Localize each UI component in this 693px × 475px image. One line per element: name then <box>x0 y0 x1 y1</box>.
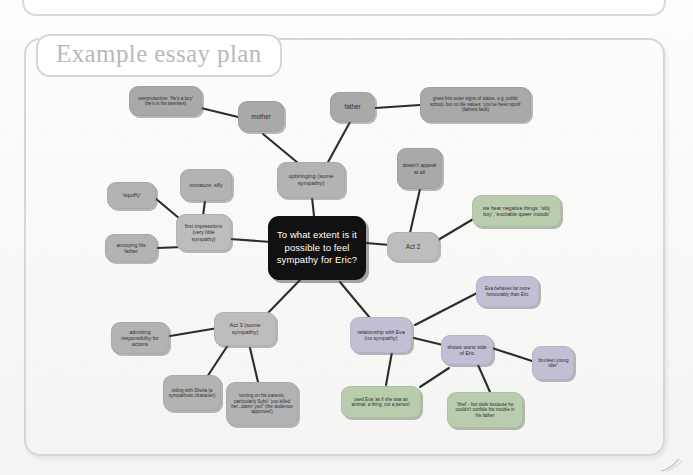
node-label: 'squiffy' <box>112 192 151 199</box>
mindmap-node-eva-honourably[interactable]: Eva behaves far more honourably than Eri… <box>476 276 539 307</box>
mindmap-node-overprotective[interactable]: overprotective: 'He's a boy' (he's in hi… <box>129 86 202 116</box>
mindmap-node-negative-things[interactable]: we hear negative things: 'silly boy', 'e… <box>472 195 561 227</box>
mindmap-node-annoying-father[interactable]: annoying his father <box>105 234 157 262</box>
node-label: annoying his father <box>110 242 152 254</box>
node-label: immature, silly <box>185 182 227 188</box>
node-label: used Eva 'as if she was an animal, a thi… <box>346 397 416 408</box>
page-corner-curl <box>657 447 687 473</box>
mindmap-node-squiffy[interactable]: 'squiffy' <box>107 182 156 209</box>
mindmap-node-drunken-idler[interactable]: 'drunken young idler' <box>532 346 574 380</box>
mindmap-node-act3[interactable]: Act 3 (some sympathy) <box>214 312 276 346</box>
node-label: overprotective: 'He's a boy' (he's in hi… <box>134 96 197 107</box>
mindmap-node-center[interactable]: To what extent is it possible to feel sy… <box>268 216 366 280</box>
node-label: father <box>335 103 370 110</box>
mindmap-node-turning-parents[interactable]: turning on his parents, particularly Syb… <box>226 382 298 426</box>
node-label: relationship with Eva (no sympathy) <box>355 329 407 341</box>
node-label: turning on his parents, particularly Syb… <box>231 393 293 415</box>
page-title-tab: Example essay plan <box>36 34 282 77</box>
node-label: To what extent is it possible to feel sy… <box>273 229 361 267</box>
mindmap-node-doesnt-appear[interactable]: doesn't appear at all <box>397 148 442 189</box>
node-label: Act 2 <box>392 243 434 250</box>
mindmap-node-first-impressions[interactable]: first impressions (very little sympathy) <box>176 214 231 251</box>
node-label: gives him outer signs of status, e.g. pu… <box>425 96 526 112</box>
mindmap-node-mother[interactable]: mother <box>238 101 284 132</box>
node-label: 'thief' - but stole because he couldn't … <box>452 402 518 418</box>
mindmap-node-relationship-eva[interactable]: relationship with Eva (no sympathy) <box>350 317 412 353</box>
node-label: upbringing (some sympathy) <box>282 173 340 187</box>
mindmap-node-act2[interactable]: Act 2 <box>387 232 439 261</box>
node-label: Act 3 (some sympathy) <box>219 322 271 336</box>
mindmap-node-status[interactable]: gives him outer signs of status, e.g. pu… <box>420 87 531 122</box>
node-label: admitting responsibility for actions <box>116 329 164 347</box>
mindmap-node-worst-side[interactable]: shows worst side of Eric <box>441 335 493 365</box>
mindmap-node-siding-sheila[interactable]: siding with Sheila (a sympathetic charac… <box>163 375 221 411</box>
node-label: shows worst side of Eric <box>446 344 488 356</box>
node-label: doesn't appear at all <box>402 162 437 174</box>
mindmap-node-thief[interactable]: 'thief' - but stole because he couldn't … <box>447 392 523 428</box>
mindmap-node-admitting[interactable]: admitting responsibility for actions <box>111 322 169 354</box>
node-label: mother <box>243 113 279 120</box>
node-label: Eva behaves far more honourably than Eri… <box>481 286 534 297</box>
page-title: Example essay plan <box>56 40 262 67</box>
mindmap-node-immature[interactable]: immature, silly <box>180 169 232 201</box>
mindmap-node-father[interactable]: father <box>330 92 375 122</box>
node-label: siding with Sheila (a sympathetic charac… <box>168 388 216 399</box>
node-label: we hear negative things: 'silly boy', 'e… <box>477 205 556 217</box>
mindmap-node-upbringing[interactable]: upbringing (some sympathy) <box>277 162 345 198</box>
node-label: first impressions (very little sympathy) <box>181 223 226 241</box>
node-label: 'drunken young idler' <box>537 358 569 369</box>
mindmap-node-used-eva[interactable]: used Eva 'as if she was an animal, a thi… <box>341 386 421 418</box>
